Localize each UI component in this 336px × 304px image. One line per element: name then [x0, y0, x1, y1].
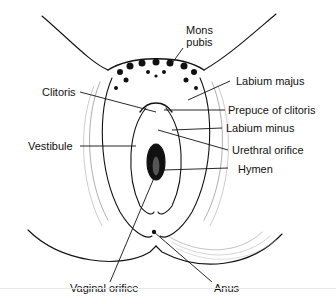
leader-anus [154, 232, 212, 282]
leader-vaginal-orifice [110, 178, 154, 282]
label-urethral-orifice: Urethral orifice [232, 144, 304, 156]
bottom-border [0, 288, 336, 289]
leader-urethral-orifice [158, 130, 228, 150]
label-prepuce-of-clitoris: Prepuce of clitoris [228, 104, 315, 116]
label-mons-line1: Mons [186, 24, 213, 36]
leader-hymen [164, 168, 228, 170]
label-labium-majus: Labium majus [236, 75, 304, 87]
label-vestibule: Vestibule [28, 140, 73, 152]
left-thigh-outline [42, 16, 108, 70]
prepuce [140, 103, 172, 112]
label-mons-line2: pubis [186, 36, 213, 48]
label-clitoris: Clitoris [42, 86, 76, 98]
left-buttock [28, 230, 156, 261]
pubic-hair-stipple [114, 59, 198, 91]
label-labium-minus: Labium minus [226, 122, 294, 134]
label-mons-pubis: Mons pubis [186, 24, 213, 48]
label-hymen: Hymen [238, 163, 273, 175]
right-thigh-outline [204, 14, 276, 70]
labium-majus-right [160, 78, 210, 237]
leader-labium-majus [188, 81, 230, 100]
leader-labium-minus [172, 128, 222, 130]
leader-mons-pubis [170, 48, 183, 66]
leader-clitoris [80, 92, 156, 112]
labium-majus-left [102, 78, 152, 237]
